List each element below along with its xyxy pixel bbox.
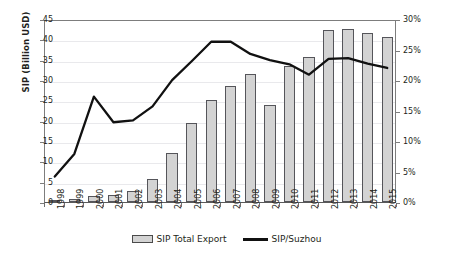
x-tick-label-1998: 1998 [58,189,66,209]
y-tick-mark-right [396,51,400,52]
y-tick-right-15%: 15% [403,108,437,116]
x-tick-mark [357,203,358,207]
plot-area [44,20,396,203]
y-tick-mark-left [40,162,44,163]
x-tick-label-2012: 2012 [332,189,340,209]
x-tick-label-2014: 2014 [371,189,379,209]
legend-label-sip-total-export: SIP Total Export [157,234,227,244]
x-tick-mark [200,203,201,207]
chart-figure: SIP (Billion USD) 051015202530354045 0%5… [0,0,453,258]
x-tick-label-2005: 2005 [195,189,203,209]
x-tick-mark [337,203,338,207]
x-tick-mark [279,203,280,207]
x-tick-label-2000: 2000 [97,189,105,209]
x-tick-label-2003: 2003 [156,189,164,209]
x-tick-mark [318,203,319,207]
x-tick-label-2001: 2001 [116,189,124,209]
chart-legend: SIP Total Export SIP/Suzhou [0,234,453,244]
x-tick-label-1999: 1999 [77,189,85,209]
y-tick-mark-right [396,112,400,113]
x-tick-label-2010: 2010 [292,189,300,209]
x-tick-mark [44,203,45,207]
line-series-sip-suzhou [45,21,397,204]
x-tick-mark [396,203,397,207]
y-tick-mark-left [40,122,44,123]
y-tick-mark-left [40,101,44,102]
x-tick-mark [220,203,221,207]
x-tick-mark [181,203,182,207]
x-tick-mark [64,203,65,207]
x-tick-mark [259,203,260,207]
x-tick-mark [376,203,377,207]
x-tick-label-2002: 2002 [136,189,144,209]
x-tick-mark [161,203,162,207]
legend-line-swatch-icon [243,238,268,241]
y-tick-right-0%: 0% [403,199,437,207]
x-tick-label-2009: 2009 [273,189,281,209]
legend-item-sip-total-export: SIP Total Export [132,234,227,244]
y-tick-mark-right [396,142,400,143]
y-tick-right-25%: 25% [403,47,437,55]
y-tick-right-5%: 5% [403,169,437,177]
x-tick-label-2007: 2007 [234,189,242,209]
x-tick-mark [122,203,123,207]
x-tick-label-2015: 2015 [390,189,398,209]
legend-bar-swatch-icon [132,235,153,243]
y-tick-mark-left [40,142,44,143]
y-tick-mark-left [40,61,44,62]
y-tick-mark-left [40,183,44,184]
y-tick-mark-right [396,20,400,21]
x-tick-label-2013: 2013 [351,189,359,209]
y-tick-right-10%: 10% [403,138,437,146]
x-tick-label-2006: 2006 [214,189,222,209]
y-tick-mark-left [40,20,44,21]
x-tick-label-2008: 2008 [253,189,261,209]
y-tick-right-30%: 30% [403,16,437,24]
y-tick-mark-left [40,40,44,41]
x-tick-mark [298,203,299,207]
x-tick-mark [142,203,143,207]
legend-label-sip-suzhou: SIP/Suzhou [272,234,322,244]
x-tick-mark [240,203,241,207]
x-tick-mark [83,203,84,207]
legend-item-sip-suzhou: SIP/Suzhou [243,234,322,244]
y-tick-mark-right [396,81,400,82]
x-tick-label-2004: 2004 [175,189,183,209]
y-tick-mark-left [40,81,44,82]
y-tick-right-20%: 20% [403,77,437,85]
x-tick-mark [103,203,104,207]
y-tick-mark-right [396,173,400,174]
x-tick-label-2011: 2011 [312,189,320,209]
